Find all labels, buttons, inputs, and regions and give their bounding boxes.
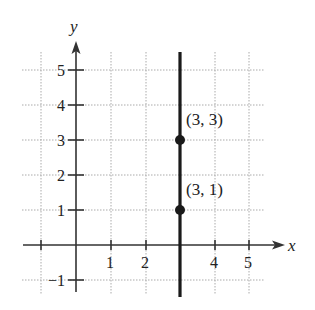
x-tick-1: 1	[106, 254, 114, 271]
y-tick-3: 3	[57, 132, 65, 149]
y-tick-1: 1	[57, 202, 65, 219]
y-tick-2: 2	[57, 167, 65, 184]
coordinate-plane: x y (3, 3) (3, 1) 1 2 4 5 5 4 3 2 1 −1	[0, 0, 315, 310]
point-3-3	[175, 135, 185, 145]
graph: x y (3, 3) (3, 1) 1 2 4 5 5 4 3 2 1 −1	[0, 0, 315, 310]
x-axis-label: x	[287, 236, 296, 255]
point-3-1	[175, 205, 185, 215]
x-tick-2: 2	[141, 254, 149, 271]
point-label-3-3: (3, 3)	[186, 110, 223, 129]
y-tick-labels: 5 4 3 2 1 −1	[48, 62, 65, 289]
y-tick-neg1: −1	[48, 272, 65, 289]
y-axis-label: y	[68, 17, 78, 36]
y-tick-5: 5	[57, 62, 65, 79]
point-label-3-1: (3, 1)	[186, 180, 223, 199]
y-tick-4: 4	[57, 97, 65, 114]
x-tick-4: 4	[210, 254, 218, 271]
x-tick-5: 5	[244, 254, 252, 271]
